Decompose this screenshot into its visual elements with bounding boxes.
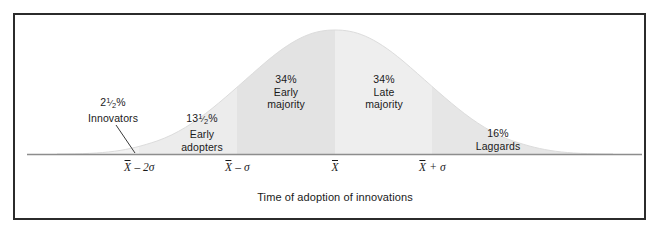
early-adopters-line1: Early — [162, 128, 242, 141]
segment-innovators — [15, 15, 139, 155]
xbar-symbol: X — [224, 161, 232, 173]
tick-expression: + σ — [426, 161, 445, 173]
early-majority-line1: Early — [246, 86, 326, 99]
innovators-leader-line — [116, 125, 135, 153]
label-late-majority: 34% Late majority — [344, 73, 424, 111]
tick-expression: – 2σ — [132, 161, 155, 173]
x-axis-caption: Time of adoption of innovations — [257, 191, 413, 203]
early-majority-percent: 34% — [246, 73, 326, 86]
laggards-name: Laggards — [458, 140, 538, 153]
early-majority-line2: majority — [246, 98, 326, 111]
label-early-majority: 34% Early majority — [246, 73, 326, 111]
tick-label-minus-2-sigma: X – 2σ — [124, 161, 155, 173]
late-majority-line2: majority — [344, 98, 424, 111]
label-early-adopters: 131⁄2% Early adopters — [162, 111, 242, 153]
xbar-symbol: X — [124, 161, 132, 173]
xbar-symbol: X — [331, 161, 339, 173]
late-majority-percent: 34% — [344, 73, 424, 86]
tick-label-minus-1-sigma: X – σ — [224, 161, 249, 173]
xbar-symbol: X — [418, 161, 426, 173]
label-laggards: 16% Laggards — [458, 127, 538, 152]
innovators-percent: 21⁄2% — [73, 95, 153, 112]
label-innovators: 21⁄2% Innovators — [73, 95, 153, 125]
early-adopters-percent: 131⁄2% — [162, 111, 242, 128]
innovators-name: Innovators — [73, 112, 153, 125]
tick-label-plus-1-sigma: X + σ — [418, 161, 445, 173]
figure-frame: 21⁄2% Innovators 131⁄2% Early adopters 3… — [13, 13, 646, 220]
curve-segments — [15, 15, 648, 155]
laggards-percent: 16% — [458, 127, 538, 140]
early-adopters-line2: adopters — [162, 141, 242, 154]
late-majority-line1: Late — [344, 86, 424, 99]
tick-expression: – σ — [232, 161, 249, 173]
tick-label-mean: X — [331, 161, 339, 173]
